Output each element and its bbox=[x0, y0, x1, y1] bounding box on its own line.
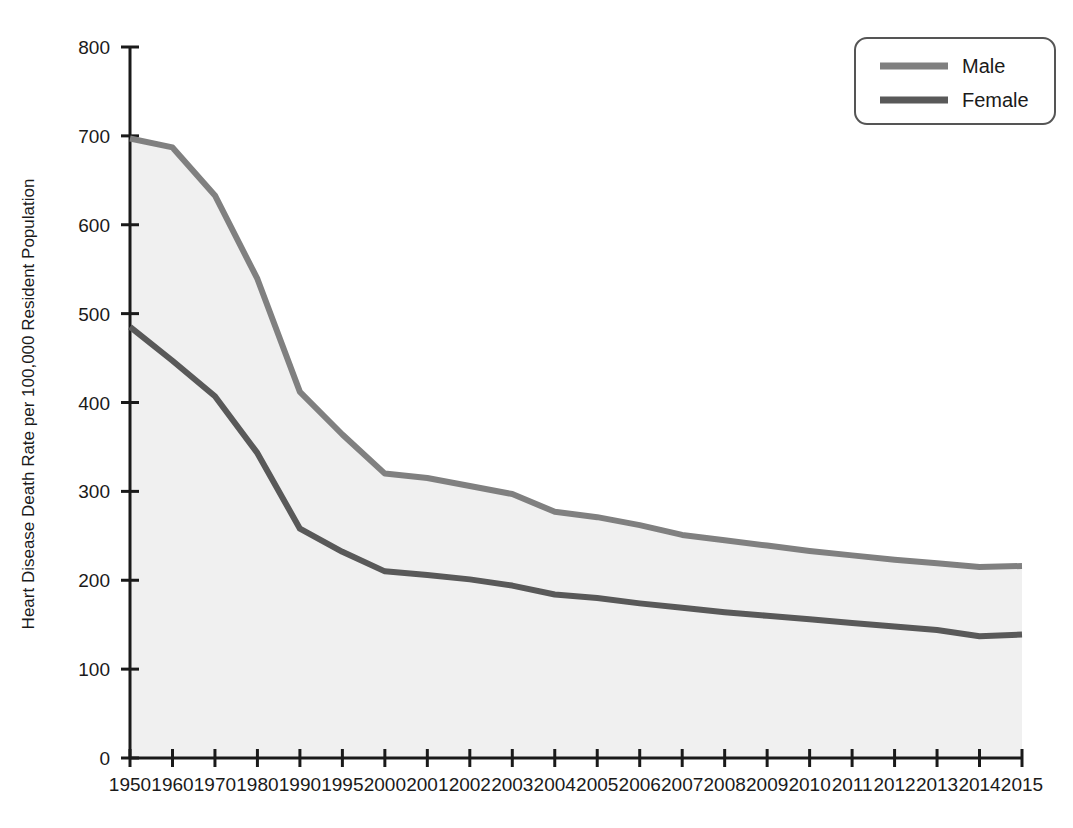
x-tick-label: 1995 bbox=[321, 774, 363, 795]
y-axis-tick-labels: 0100200300400500600700800 bbox=[78, 37, 110, 769]
x-tick-label: 1950 bbox=[109, 774, 151, 795]
x-tick-label: 2011 bbox=[832, 774, 873, 795]
y-axis-title: Heart Disease Death Rate per 100,000 Res… bbox=[19, 179, 38, 630]
x-tick-label: 2008 bbox=[704, 774, 746, 795]
chart-container: 0100200300400500600700800 19501960197019… bbox=[0, 0, 1073, 828]
x-tick-label: 2013 bbox=[916, 774, 958, 795]
chart-legend[interactable]: Male Female bbox=[855, 38, 1055, 124]
y-tick-label: 300 bbox=[78, 481, 110, 502]
y-tick-label: 600 bbox=[78, 215, 110, 236]
x-tick-label: 2010 bbox=[788, 774, 830, 795]
y-tick-label: 700 bbox=[78, 126, 110, 147]
y-tick-label: 200 bbox=[78, 570, 110, 591]
y-tick-label: 0 bbox=[99, 748, 110, 769]
x-tick-label: 1990 bbox=[279, 774, 321, 795]
x-tick-label: 2015 bbox=[1001, 774, 1043, 795]
y-tick-label: 800 bbox=[78, 37, 110, 58]
line-chart: 0100200300400500600700800 19501960197019… bbox=[0, 0, 1073, 828]
x-tick-label: 1970 bbox=[194, 774, 236, 795]
x-tick-label: 2004 bbox=[534, 774, 577, 795]
x-tick-label: 2003 bbox=[491, 774, 533, 795]
x-tick-label: 1960 bbox=[151, 774, 193, 795]
x-tick-label: 2009 bbox=[746, 774, 788, 795]
shaded-area-under-curve bbox=[130, 139, 1022, 758]
x-tick-label: 1980 bbox=[236, 774, 278, 795]
legend-box bbox=[855, 38, 1055, 124]
y-tick-label: 500 bbox=[78, 304, 110, 325]
x-axis-tick-labels: 1950196019701980199019952000200120022003… bbox=[109, 774, 1043, 795]
x-tick-label: 2001 bbox=[406, 774, 448, 795]
legend-label-male: Male bbox=[962, 55, 1005, 77]
x-tick-label: 2002 bbox=[449, 774, 491, 795]
x-tick-label: 2014 bbox=[958, 774, 1001, 795]
legend-label-female: Female bbox=[962, 89, 1029, 111]
y-tick-label: 100 bbox=[78, 659, 110, 680]
x-tick-label: 2006 bbox=[619, 774, 661, 795]
x-tick-label: 2005 bbox=[576, 774, 618, 795]
y-tick-label: 400 bbox=[78, 393, 110, 414]
x-tick-label: 2012 bbox=[873, 774, 915, 795]
x-tick-label: 2007 bbox=[661, 774, 703, 795]
x-tick-label: 2000 bbox=[364, 774, 406, 795]
